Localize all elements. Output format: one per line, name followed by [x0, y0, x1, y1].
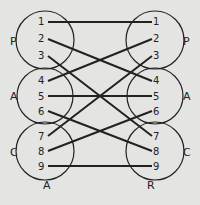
left-column-title: A	[43, 179, 51, 192]
right-item-6: 6	[153, 106, 159, 117]
left-group-c-circle	[16, 122, 74, 180]
left-group-label-a: A	[10, 90, 18, 103]
left-item-2: 2	[38, 33, 44, 44]
right-item-7: 7	[153, 131, 159, 142]
right-item-3: 3	[153, 50, 159, 61]
right-group-label-a: A	[183, 90, 191, 103]
left-group-label-p: P	[10, 35, 17, 48]
left-item-9: 9	[38, 161, 44, 172]
right-item-1: 1	[153, 16, 159, 27]
matching-diagram: 1 2 3 4 5 6 7 8 9 1 2 3 4 5 6 7 8 9 P A …	[0, 0, 200, 205]
connection-lines	[48, 22, 152, 166]
left-item-7: 7	[38, 131, 44, 142]
left-item-1: 1	[38, 16, 44, 27]
right-item-5: 5	[153, 91, 159, 102]
left-item-5: 5	[38, 91, 44, 102]
left-item-6: 6	[38, 106, 44, 117]
left-group-label-c: C	[10, 146, 18, 159]
right-group-label-p: P	[183, 35, 190, 48]
right-column-title: R	[147, 179, 155, 192]
left-item-8: 8	[38, 146, 44, 157]
right-group-label-c: C	[183, 146, 191, 159]
left-item-4: 4	[38, 75, 44, 86]
right-item-9: 9	[153, 161, 159, 172]
right-item-4: 4	[153, 75, 159, 86]
left-group-p-circle	[16, 11, 74, 69]
right-item-8: 8	[153, 146, 159, 157]
left-item-3: 3	[38, 50, 44, 61]
right-item-2: 2	[153, 33, 159, 44]
